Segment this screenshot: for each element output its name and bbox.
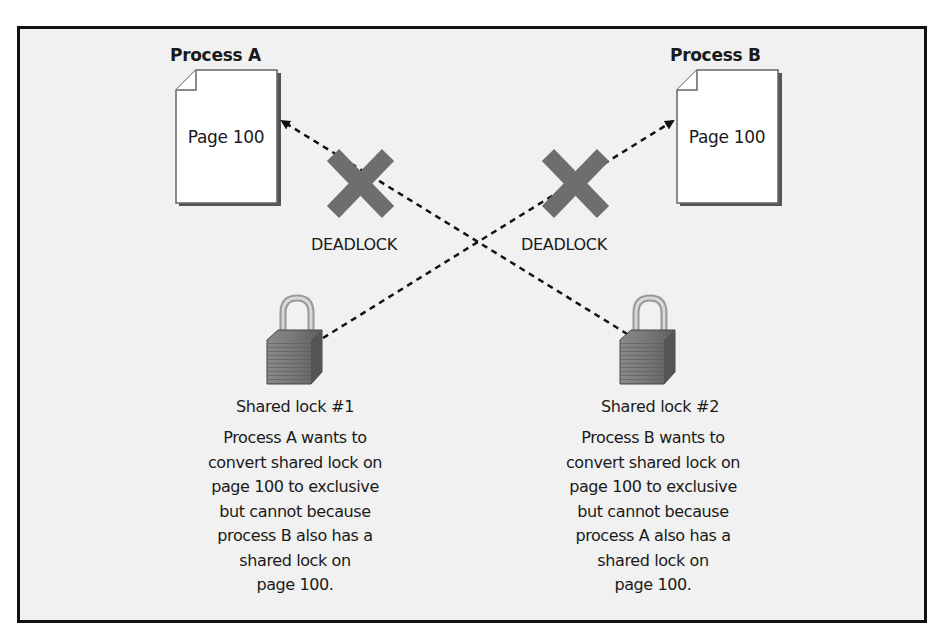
desc-line: page 100. [543, 573, 763, 598]
deadlock-label-left: DEADLOCK [311, 235, 397, 254]
shared-lock-2-label: Shared lock #2 [560, 397, 760, 416]
desc-line: process A also has a [543, 524, 763, 549]
process-a-page: Page 100 [176, 70, 276, 203]
process-a-title: Process A [170, 45, 261, 65]
desc-line: but cannot because [185, 500, 405, 525]
blocked-arrow-lock1-to-page-b [323, 121, 673, 338]
desc-line: page 100. [185, 573, 405, 598]
padlock-icon-2 [620, 298, 675, 384]
shared-lock-2-description: Process B wants to convert shared lock o… [543, 426, 763, 598]
process-a-page-label: Page 100 [176, 127, 276, 147]
deadlock-x-icon-right [548, 155, 603, 212]
desc-line: shared lock on [185, 549, 405, 574]
desc-line: but cannot because [543, 500, 763, 525]
desc-line: convert shared lock on [543, 451, 763, 476]
process-b-title: Process B [670, 45, 761, 65]
padlock-icon-1 [267, 298, 322, 384]
process-b-page-label: Page 100 [677, 127, 777, 147]
desc-line: page 100 to exclusive [185, 475, 405, 500]
desc-line: Process A wants to [185, 426, 405, 451]
desc-line: page 100 to exclusive [543, 475, 763, 500]
process-b-page: Page 100 [677, 70, 777, 203]
diagram-graphics [0, 0, 945, 644]
desc-line: shared lock on [543, 549, 763, 574]
shared-lock-1-label: Shared lock #1 [195, 397, 395, 416]
shared-lock-1-description: Process A wants to convert shared lock o… [185, 426, 405, 598]
deadlock-x-icon-left [333, 155, 388, 212]
deadlock-label-right: DEADLOCK [521, 235, 607, 254]
desc-line: process B also has a [185, 524, 405, 549]
desc-line: Process B wants to [543, 426, 763, 451]
desc-line: convert shared lock on [185, 451, 405, 476]
